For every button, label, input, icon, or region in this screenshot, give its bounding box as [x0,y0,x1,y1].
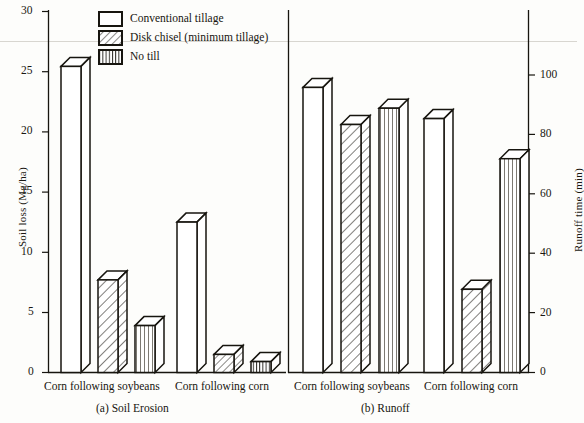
y-tick-label-b-40: 40 [540,246,552,258]
y-tick-label-b-80: 80 [540,127,552,139]
y-tick-label-a-5: 5 [28,305,34,317]
y-axis-title-a: Soil loss (Mg/ha) [16,167,28,247]
legend-swatch-disk-chisel [99,31,122,45]
x-category-label-b-soybeans: Corn following soybeans [294,380,410,392]
bar-a-soybeans-disk-chisel [98,271,127,373]
y-tick-label-b-0: 0 [540,365,546,377]
y-tick-label-b-100: 100 [540,68,557,80]
bar-a-soybeans-conventional [61,57,90,372]
bar-a-corn-conventional [177,213,206,372]
y-tick-label-b-20: 20 [540,306,552,318]
bar-a-corn-disk-chisel [214,345,243,372]
legend-label-no-till: No till [130,50,160,62]
bar-b-soybeans-conventional [303,78,332,372]
legend-swatch-no-till [99,50,122,64]
x-category-label-a-corn: Corn following corn [175,380,269,392]
bar-a-soybeans-no-till [135,317,164,373]
y-axis-title-b: Runoff time (min) [572,168,584,252]
legend-swatch-conventional [99,12,122,26]
bar-b-corn-no-till [500,150,529,373]
panel-caption-b: (b) Runoff [361,402,410,414]
bar-a-corn-no-till [251,353,280,373]
legend-label-disk-chisel: Disk chisel (minimum tillage) [130,31,268,43]
x-category-label-a-soybeans: Corn following soybeans [44,380,160,392]
y-tick-label-a-30: 30 [21,4,33,16]
panel-a-bars [61,57,280,372]
y-tick-label-b-60: 60 [540,187,552,199]
bar-b-soybeans-disk-chisel [341,116,370,373]
panel-b-bars [303,78,529,372]
panel-caption-a: (a) Soil Erosion [96,402,169,414]
y-tick-label-a-25: 25 [21,64,33,76]
y-tick-label-a-20: 20 [21,124,33,136]
x-category-label-b-corn: Corn following corn [424,380,518,392]
legend-label-conventional: Conventional tillage [130,12,224,24]
bar-b-soybeans-no-till [379,99,408,372]
bar-b-corn-conventional [424,110,453,373]
y-tick-label-a-0: 0 [28,365,34,377]
legend-swatches [99,12,122,64]
bar-b-corn-disk-chisel [462,280,491,372]
